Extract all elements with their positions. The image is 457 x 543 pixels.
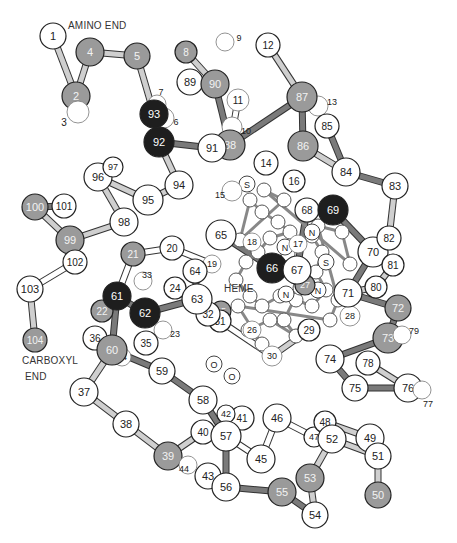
residue-46: 46 — [263, 404, 291, 432]
heme-atom — [277, 193, 291, 207]
residue-number: 104 — [27, 335, 44, 346]
residue-number: 87 — [296, 91, 308, 103]
residue-15: 15 — [215, 181, 242, 201]
residue-number: 74 — [324, 353, 336, 365]
residue-number: 76 — [402, 382, 414, 394]
residue-29: 29 — [298, 319, 320, 341]
nitrogen-atom-3: N — [315, 286, 322, 296]
residue-number: 99 — [64, 234, 76, 246]
residue-5: 5 — [124, 43, 150, 69]
residue-81: 81 — [382, 254, 404, 276]
residue-97: 97 — [103, 157, 123, 177]
residue-92: 92 — [144, 127, 174, 157]
residue-number: 60 — [106, 344, 118, 356]
residue-79: 79 — [393, 326, 419, 344]
residue-number: 77 — [423, 399, 433, 409]
residue-number: 58 — [197, 394, 209, 406]
residue-number: 54 — [309, 509, 321, 521]
residue-number: 70 — [367, 246, 379, 258]
residue-ball — [67, 101, 89, 123]
residue-12: 12 — [256, 33, 280, 57]
residue-number: 68 — [301, 205, 313, 216]
residue-ball — [216, 33, 234, 51]
residue-99: 99 — [56, 226, 84, 254]
carboxyl-end-label-line1: CARBOXYL — [22, 355, 78, 366]
residue-number: 45 — [255, 453, 267, 465]
residue-30: 30 — [262, 346, 282, 366]
residue-85: 85 — [315, 114, 339, 138]
residue-number: 86 — [297, 140, 309, 152]
residue-35: 35 — [134, 331, 158, 355]
residue-number: 22 — [96, 306, 108, 317]
residue-16: 16 — [283, 170, 305, 192]
residue-number: 73 — [382, 332, 394, 344]
residue-number: 61 — [111, 290, 123, 302]
residue-number: 66 — [266, 262, 278, 274]
heme-atom — [239, 255, 253, 269]
residue-75: 75 — [342, 375, 368, 401]
residue-52: 52 — [318, 425, 346, 453]
residue-number: 8 — [183, 47, 189, 58]
residue-9: 9 — [216, 33, 242, 51]
residue-number: 78 — [362, 358, 374, 369]
residue-56: 56 — [212, 473, 240, 501]
residue-number: 84 — [340, 166, 352, 178]
residue-number: 40 — [197, 427, 209, 438]
residue-number: 5 — [134, 50, 140, 62]
residue-66: 66 — [257, 253, 287, 283]
residue-45: 45 — [247, 445, 275, 473]
residue-82: 82 — [377, 226, 401, 250]
residue-37: 37 — [70, 378, 98, 406]
residue-20: 20 — [160, 236, 184, 260]
residue-14: 14 — [254, 151, 278, 175]
residue-83: 83 — [382, 173, 408, 199]
residue-number: 49 — [364, 432, 376, 444]
residue-number: 96 — [92, 171, 104, 183]
residue-67: 67 — [283, 256, 311, 284]
sulfur-atom-2: S — [323, 258, 329, 268]
residue-number: 52 — [326, 433, 338, 445]
residue-number: 9 — [236, 33, 241, 43]
residue-86: 86 — [288, 131, 318, 161]
residue-number: 24 — [169, 283, 181, 294]
carboxyl-end-label-line2: END — [25, 371, 47, 382]
residue-number: 97 — [108, 162, 118, 172]
residue-number: 4 — [87, 46, 93, 58]
residue-11: 11 — [227, 89, 249, 111]
residue-number: 64 — [189, 266, 201, 277]
residue-33: 33 — [134, 270, 152, 290]
residue-number: 7 — [158, 87, 163, 97]
residue-number: 85 — [321, 121, 333, 132]
residue-60: 60 — [97, 335, 127, 365]
residue-number: 29 — [303, 325, 315, 336]
residue-number: 12 — [262, 40, 274, 51]
nitrogen-atom-2: N — [283, 290, 290, 300]
residue-80: 80 — [365, 276, 387, 298]
sulfur-atom-1: S — [244, 180, 250, 190]
residue-42: 42 — [217, 405, 235, 423]
residue-55: 55 — [268, 478, 296, 506]
residue-87: 87 — [287, 82, 317, 112]
residue-number: 28 — [345, 311, 355, 321]
heme-atom — [257, 183, 271, 197]
residue-number: 101 — [56, 201, 73, 212]
oxygen-atom-1: O — [210, 360, 217, 370]
residue-number: 50 — [372, 489, 384, 501]
residue-54: 54 — [302, 502, 328, 528]
residue-51: 51 — [365, 443, 391, 469]
residue-90: 90 — [201, 70, 229, 98]
residue-23: 23 — [154, 321, 180, 339]
residue-number: 56 — [220, 481, 232, 493]
heme-atom — [335, 225, 349, 239]
residue-number: 90 — [209, 78, 221, 90]
residue-71: 71 — [334, 279, 362, 307]
residue-number: 93 — [148, 108, 160, 120]
residue-95: 95 — [133, 185, 163, 215]
residue-number: 2 — [73, 90, 79, 102]
residue-number: 43 — [202, 470, 214, 482]
residue-number: 26 — [247, 325, 257, 335]
residue-28: 28 — [340, 306, 360, 326]
residue-number: 17 — [293, 239, 303, 249]
residue-102: 102 — [63, 250, 87, 274]
residue-number: 55 — [276, 486, 288, 498]
